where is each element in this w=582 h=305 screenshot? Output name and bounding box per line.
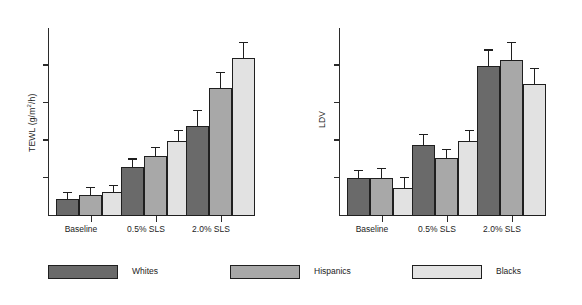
y-axis-tick-0	[334, 177, 340, 178]
bar-whites	[186, 126, 209, 216]
bar-group-baseline	[56, 28, 125, 216]
error-bar-hispanics	[220, 73, 221, 88]
error-bar-hispanics	[446, 150, 447, 158]
bar-group-2-0-sls	[477, 28, 546, 216]
x-axis-tick-0	[91, 216, 92, 222]
x-axis-tick-0	[382, 216, 383, 222]
error-bar-whites	[132, 160, 133, 168]
plot-area-tewl	[48, 28, 244, 216]
bar-hispanics	[500, 60, 523, 216]
error-bar-cap-blacks	[109, 185, 118, 186]
y-axis-tick-2	[43, 102, 49, 103]
bar-hispanics	[370, 178, 393, 216]
chart-panel-ldv: LDV Baseline 0.5% SLS 2.0% SLS	[291, 0, 582, 255]
error-bar-blacks	[113, 186, 114, 192]
error-bar-whites	[67, 193, 68, 199]
error-bar-blacks	[178, 131, 179, 140]
y-axis-label-ldv: LDV	[317, 111, 327, 128]
legend-swatch-whites	[48, 265, 118, 279]
figure-root: TEWL (g/m2/h) Baseline 0.5% SLS 2.0% SLS…	[0, 0, 582, 305]
error-bar-whites	[358, 171, 359, 179]
x-axis-tick-2	[221, 216, 222, 222]
error-bar-blacks	[534, 69, 535, 84]
error-bar-cap-hispanics	[442, 149, 451, 150]
x-tick-label-baseline: Baseline	[339, 224, 405, 234]
x-tick-label-20sls: 2.0% SLS	[469, 224, 535, 234]
y-axis-tick-2	[334, 102, 340, 103]
y-axis-tick-3	[334, 64, 340, 65]
error-bar-cap-whites	[419, 134, 428, 135]
error-bar-whites	[197, 111, 198, 126]
y-axis-tick-1	[334, 139, 340, 140]
bar-hispanics	[435, 158, 458, 216]
error-bar-hispanics	[381, 169, 382, 178]
y-axis-line	[339, 28, 340, 216]
bar-hispanics	[209, 88, 232, 216]
bar-whites	[477, 66, 500, 216]
error-bar-cap-blacks	[465, 130, 474, 131]
error-bar-blacks	[243, 43, 244, 58]
x-tick-label-baseline: Baseline	[48, 224, 114, 234]
legend-label-blacks: Blacks	[496, 266, 521, 276]
error-bar-cap-hispanics	[151, 147, 160, 148]
error-bar-blacks	[404, 178, 405, 187]
x-tick-label-05sls: 0.5% SLS	[113, 224, 179, 234]
error-bar-cap-whites	[354, 170, 363, 171]
y-axis-tick-0	[43, 177, 49, 178]
chart-panel-tewl: TEWL (g/m2/h) Baseline 0.5% SLS 2.0% SLS	[0, 0, 291, 255]
x-tick-label-20sls: 2.0% SLS	[178, 224, 244, 234]
error-bar-cap-blacks	[239, 42, 248, 43]
error-bar-hispanics	[511, 43, 512, 60]
y-axis-tick-1	[43, 139, 49, 140]
error-bar-cap-blacks	[400, 177, 409, 178]
error-bar-whites	[423, 135, 424, 144]
legend-swatch-blacks	[412, 265, 482, 279]
legend-swatch-hispanics	[230, 265, 300, 279]
error-bar-hispanics	[90, 188, 91, 196]
error-bar-whites	[488, 51, 489, 66]
bar-whites	[121, 167, 144, 216]
bar-hispanics	[144, 156, 167, 216]
bar-group-0-5-sls	[121, 28, 190, 216]
error-bar-cap-hispanics	[216, 72, 225, 73]
y-axis-label-tewl: TEWL (g/m2/h)	[26, 93, 37, 152]
bar-whites	[347, 178, 370, 216]
error-bar-cap-hispanics	[377, 168, 386, 169]
legend-label-whites: Whites	[132, 266, 158, 276]
bar-blacks	[232, 58, 255, 216]
bar-blacks	[523, 84, 546, 216]
error-bar-cap-blacks	[530, 68, 539, 69]
error-bar-cap-hispanics	[86, 187, 95, 188]
error-bar-cap-whites	[484, 49, 493, 50]
error-bar-cap-whites	[193, 110, 202, 111]
bar-group-0-5-sls	[412, 28, 481, 216]
error-bar-cap-whites	[63, 192, 72, 193]
y-axis-tick-3	[43, 64, 49, 65]
error-bar-cap-hispanics	[507, 42, 516, 43]
error-bar-cap-whites	[128, 158, 137, 159]
error-bar-hispanics	[155, 148, 156, 156]
legend: Whites Hispanics Blacks	[0, 262, 582, 288]
x-axis-tick-1	[447, 216, 448, 222]
x-tick-label-05sls: 0.5% SLS	[404, 224, 470, 234]
bar-group-2-0-sls	[186, 28, 255, 216]
plot-area-ldv	[339, 28, 535, 216]
bar-hispanics	[79, 195, 102, 216]
x-axis-tick-2	[512, 216, 513, 222]
error-bar-cap-blacks	[174, 130, 183, 131]
bar-whites	[56, 199, 79, 216]
y-axis-line	[48, 28, 49, 216]
error-bar-blacks	[469, 131, 470, 140]
bar-group-baseline	[347, 28, 416, 216]
legend-label-hispanics: Hispanics	[314, 266, 351, 276]
x-axis-tick-1	[156, 216, 157, 222]
bar-whites	[412, 145, 435, 216]
